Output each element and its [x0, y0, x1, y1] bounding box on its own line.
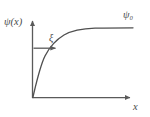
- y-axis-label-text: ψ(x): [4, 16, 22, 27]
- wavefunction-figure: ψ(x) ψ₀ ξ x: [0, 0, 150, 117]
- x-axis-label-text: x: [133, 101, 138, 112]
- psi-curve: [33, 28, 133, 98]
- coherence-length-label: ξ: [49, 33, 53, 43]
- coherence-length-label-text: ξ: [49, 32, 53, 43]
- y-axis-label: ψ(x): [4, 17, 22, 28]
- asymptote-label: ψ₀: [123, 10, 133, 21]
- asymptote-label-text: ψ₀: [123, 9, 133, 20]
- x-axis-label: x: [133, 102, 138, 113]
